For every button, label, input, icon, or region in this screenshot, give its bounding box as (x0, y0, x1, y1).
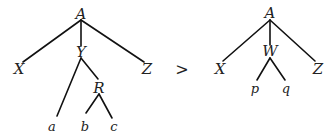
right-node-X: X (214, 60, 227, 78)
left-node-Z: Z (141, 60, 153, 78)
left-node-R: R (92, 79, 104, 97)
right-leaf-q: q (282, 81, 290, 96)
right-tree-labels: A X W Z p q (214, 4, 324, 96)
edge-Y-a (57, 58, 81, 116)
right-leaf-p: p (251, 81, 260, 96)
left-node-A: A (74, 5, 87, 23)
left-tree-labels: A X Y Z R a b c (13, 5, 153, 134)
edge-W-p (257, 58, 270, 80)
left-leaf-a: a (48, 119, 56, 134)
edge-W-q (270, 58, 285, 80)
edge-A-Z (81, 20, 144, 62)
right-node-W: W (262, 42, 279, 60)
right-node-Z: Z (312, 60, 324, 78)
left-node-Y: Y (76, 43, 88, 61)
edge-A-X (23, 20, 81, 62)
left-node-X: X (13, 60, 26, 78)
tree-comparison-diagram: A X Y Z R a b c > A X W Z p q (0, 0, 336, 140)
greater-than-operator: > (175, 60, 188, 79)
right-node-A: A (263, 4, 276, 22)
left-leaf-c: c (110, 119, 118, 134)
edge-Y-R (81, 58, 98, 79)
left-leaf-b: b (81, 119, 89, 134)
left-tree-edges (23, 20, 144, 118)
edge-R-c (99, 94, 112, 118)
